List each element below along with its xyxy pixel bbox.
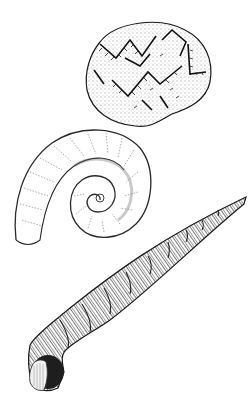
coiled-shell	[15, 130, 151, 244]
tower-shell	[29, 197, 246, 391]
illustration-canvas	[0, 0, 250, 402]
shells-illustration	[0, 0, 250, 402]
reticulate-shell	[86, 22, 211, 126]
